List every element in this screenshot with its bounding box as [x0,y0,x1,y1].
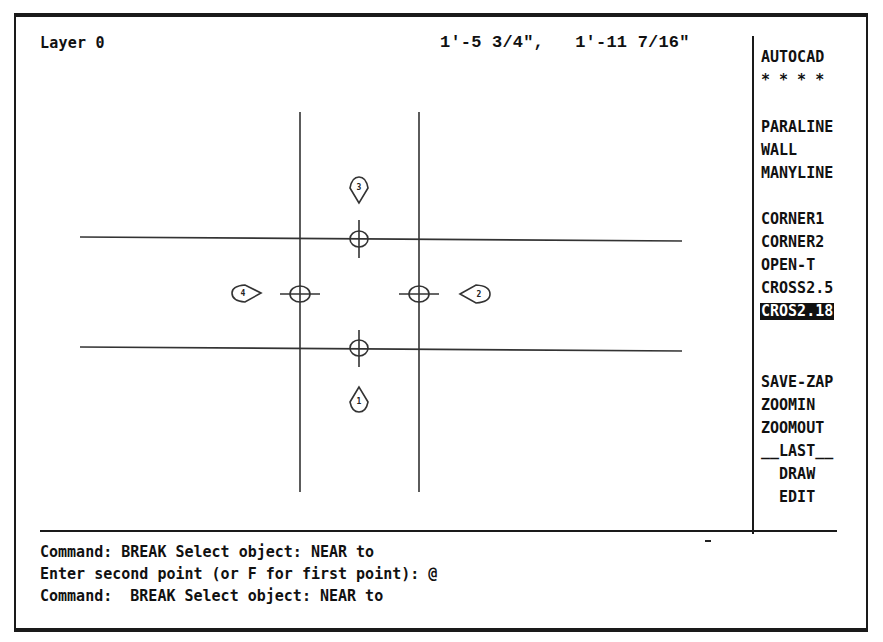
menu-item-paraline[interactable]: PARALINE [760,119,834,136]
menu-item-open-t[interactable]: OPEN-T [760,257,816,274]
menu-stars[interactable]: * * * * [760,72,825,89]
menu-item-draw[interactable]: DRAW [760,466,816,483]
horizontal-line-top[interactable] [80,237,682,241]
menu-item-zoomout[interactable]: ZOOMOUT [760,420,825,437]
command-history-line: Command: BREAK Select object: NEAR to [40,544,374,560]
menu-item-manyline[interactable]: MANYLINE [760,165,834,182]
marker-4-label: 4 [241,289,246,298]
marker-2-icon [460,285,490,303]
command-history-line: Enter second point (or F for first point… [40,566,437,582]
menu-item-save-zap[interactable]: SAVE-ZAP [760,374,834,391]
horizontal-line-bottom[interactable] [80,347,682,351]
menu-item-cross2-5[interactable]: CROSS2.5 [760,280,834,297]
text-cursor [705,540,711,542]
menu-item-wall[interactable]: WALL [760,142,798,159]
screen-menu-divider [752,36,754,534]
menu-item-last[interactable]: __LAST__ [760,443,834,460]
marker-1-label: 1 [357,397,362,406]
menu-item-corner2[interactable]: CORNER2 [760,234,825,251]
menu-item-corner1[interactable]: CORNER1 [760,211,825,228]
menu-item-edit[interactable]: EDIT [760,489,816,506]
marker-2-label: 2 [477,290,482,299]
command-area-separator [40,530,837,532]
menu-title-autocad[interactable]: AUTOCAD [760,49,825,66]
command-prompt-line[interactable]: Command: BREAK Select object: NEAR to [40,588,383,604]
marker-4-icon [232,285,261,302]
menu-item-cros2-18[interactable]: CROS2.18 [760,303,834,320]
menu-item-zoomin[interactable]: ZOOMIN [760,397,816,414]
marker-3-label: 3 [357,183,362,192]
